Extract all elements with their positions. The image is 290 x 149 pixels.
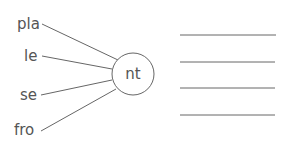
answer-lines: [180, 35, 276, 115]
prefix-pla: pla: [17, 15, 40, 33]
connector-le: [42, 56, 112, 69]
word-building-diagram: nt pla le se fro: [0, 0, 290, 149]
prefix-se: se: [20, 86, 37, 104]
connector-pla: [42, 24, 118, 60]
prefix-le: le: [24, 47, 37, 65]
connector-lines: [41, 24, 118, 131]
center-label: nt: [125, 65, 141, 83]
prefix-fro: fro: [14, 121, 34, 139]
connector-se: [41, 80, 112, 95]
connector-fro: [41, 89, 116, 131]
